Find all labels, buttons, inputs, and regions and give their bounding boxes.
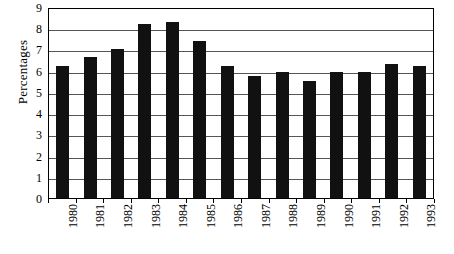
bars-layer xyxy=(49,9,433,198)
bar-slot xyxy=(323,9,350,198)
bar-slot xyxy=(296,9,323,198)
x-axis-tick-label: 1981 xyxy=(94,204,107,250)
x-axis-tick-mark xyxy=(324,199,325,203)
x-axis-tick-label: 1985 xyxy=(205,204,218,250)
bar-slot xyxy=(351,9,378,198)
bar[interactable] xyxy=(385,64,398,198)
bar-slot xyxy=(241,9,268,198)
x-axis-tick-label: 1983 xyxy=(150,204,163,250)
x-axis-tick-label: 1984 xyxy=(177,204,190,250)
x-axis-tick-label: 1990 xyxy=(343,204,356,250)
bar[interactable] xyxy=(111,49,124,198)
x-axis-tick-mark xyxy=(434,199,435,203)
y-axis-tick-label: 9 xyxy=(28,2,42,14)
y-axis-tick-label: 6 xyxy=(28,66,42,78)
x-axis-tick-label: 1989 xyxy=(315,204,328,250)
bar-slot xyxy=(159,9,186,198)
y-axis-tick-label: 5 xyxy=(28,87,42,99)
x-axis-tick-labels: 1980198119821983198419851986198719881989… xyxy=(48,204,434,254)
y-axis-tick-label: 1 xyxy=(28,172,42,184)
y-axis-tick-label: 7 xyxy=(28,44,42,56)
x-axis-tick-mark xyxy=(379,199,380,203)
bar[interactable] xyxy=(56,66,69,198)
bar[interactable] xyxy=(413,66,426,198)
x-axis-tick-mark xyxy=(351,199,352,203)
bar[interactable] xyxy=(248,76,261,198)
x-axis-tick-mark xyxy=(296,199,297,203)
x-axis-tick-label: 1982 xyxy=(122,204,135,250)
x-axis-tick-label: 1991 xyxy=(370,204,383,250)
bar[interactable] xyxy=(138,24,151,198)
x-axis-tick-label: 1986 xyxy=(232,204,245,250)
bar[interactable] xyxy=(330,72,343,198)
bar-slot xyxy=(214,9,241,198)
bar[interactable] xyxy=(303,81,316,198)
bar[interactable] xyxy=(193,41,206,198)
bar-slot xyxy=(104,9,131,198)
x-axis-tick-label: 1988 xyxy=(287,204,300,250)
x-axis-tick-mark xyxy=(131,199,132,203)
x-axis-tick-label: 1993 xyxy=(425,204,438,250)
y-axis-tick-label: 4 xyxy=(28,108,42,120)
bar[interactable] xyxy=(166,22,179,198)
x-axis-tick-mark xyxy=(48,199,49,203)
plot-area xyxy=(48,8,434,199)
x-axis-tick-mark xyxy=(406,199,407,203)
x-axis-tick-mark xyxy=(186,199,187,203)
y-axis-tick-label: 8 xyxy=(28,23,42,35)
bar[interactable] xyxy=(221,66,234,198)
bar-slot xyxy=(405,9,432,198)
x-axis-tick-mark xyxy=(103,199,104,203)
y-axis-tick-labels: 0123456789 xyxy=(28,8,42,199)
y-axis-tick-label: 3 xyxy=(28,129,42,141)
bar-slot xyxy=(186,9,213,198)
bar-slot xyxy=(378,9,405,198)
bar-chart: Percentages 0123456789 19801981198219831… xyxy=(0,0,454,254)
x-axis-tick-label: 1992 xyxy=(398,204,411,250)
x-axis-tick-mark xyxy=(213,199,214,203)
bar-slot xyxy=(131,9,158,198)
x-axis-tick-mark xyxy=(76,199,77,203)
bar-slot xyxy=(76,9,103,198)
bar-slot xyxy=(49,9,76,198)
bar-slot xyxy=(268,9,295,198)
bar[interactable] xyxy=(276,72,289,198)
bar[interactable] xyxy=(358,72,371,198)
x-axis-tick-label: 1987 xyxy=(260,204,273,250)
x-axis-tick-mark xyxy=(158,199,159,203)
x-axis-tick-mark xyxy=(269,199,270,203)
bar[interactable] xyxy=(84,57,97,198)
x-axis-tick-label: 1980 xyxy=(67,204,80,250)
x-axis-tick-mark xyxy=(241,199,242,203)
y-axis-tick-label: 0 xyxy=(28,193,42,205)
y-axis-tick-label: 2 xyxy=(28,151,42,163)
